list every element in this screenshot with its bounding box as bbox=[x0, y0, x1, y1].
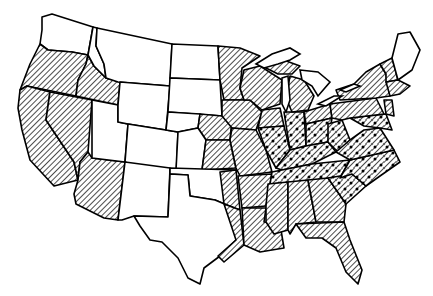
state-maine bbox=[392, 32, 420, 80]
state-kansas-west bbox=[176, 128, 206, 170]
us-map-svg bbox=[0, 0, 433, 296]
state-new-jersey bbox=[384, 100, 394, 116]
state-massachusetts-ct-ri bbox=[386, 80, 410, 96]
state-wyoming bbox=[118, 82, 170, 130]
state-florida bbox=[296, 222, 362, 284]
state-montana bbox=[96, 28, 172, 86]
state-north-dakota bbox=[170, 44, 220, 80]
state-new-york bbox=[336, 64, 390, 100]
state-washington bbox=[40, 14, 93, 55]
state-arizona bbox=[74, 152, 125, 220]
state-illinois-north bbox=[258, 108, 284, 128]
state-south-dakota bbox=[168, 78, 222, 116]
state-mississippi bbox=[266, 182, 288, 234]
state-new-mexico bbox=[118, 162, 170, 220]
lake-michigan bbox=[282, 76, 290, 112]
us-map bbox=[0, 0, 433, 296]
